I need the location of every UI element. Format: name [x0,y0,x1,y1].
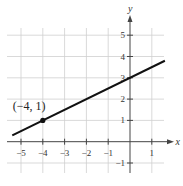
data-points: (−4, 1) [13,99,46,123]
x-tick-label: −2 [82,148,92,158]
axes: xy [7,3,181,173]
y-tick-label: 5 [121,30,126,40]
y-tick-label: 2 [121,94,126,104]
data-line [12,61,165,136]
y-tick-label: 1 [121,115,126,125]
x-tick-label: −1 [103,148,113,158]
y-axis-label: y [127,3,133,14]
y-tick-label: −1 [115,158,125,168]
y-axis-arrow-icon [128,15,133,22]
y-tick-label: 4 [121,52,126,62]
x-tick-label: −4 [38,148,48,158]
data-point-label: (−4, 1) [13,99,46,113]
data-point [40,118,45,123]
line-graph: xy −5−4−3−2−11−112345 (−4, 1) [0,0,183,186]
x-tick-label: 1 [150,148,155,158]
x-tick-label: −3 [60,148,70,158]
x-axis-label: x [175,136,181,147]
x-axis-arrow-icon [167,139,174,144]
x-tick-label: −5 [16,148,26,158]
line-series [12,61,165,136]
